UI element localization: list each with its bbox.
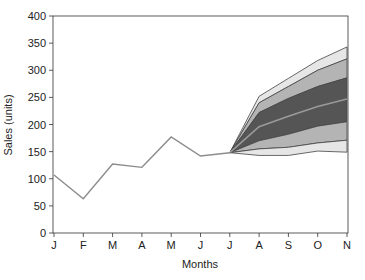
x-tick-label: M <box>108 239 117 251</box>
y-tick-label: 250 <box>28 91 46 103</box>
x-tick-label: O <box>313 239 322 251</box>
actual-sales-line <box>54 137 230 199</box>
x-axis-title: Months <box>182 258 219 270</box>
y-tick-label: 200 <box>28 119 46 131</box>
x-tick-label: N <box>343 239 351 251</box>
y-tick-label: 400 <box>28 10 46 22</box>
y-tick-label: 50 <box>34 200 46 212</box>
x-tick-label: S <box>285 239 292 251</box>
y-tick-label: 100 <box>28 173 46 185</box>
chart-svg: 050100150200250300350400JFMAMJJASON Mont… <box>0 0 365 280</box>
x-tick-label: J <box>198 239 204 251</box>
y-tick-label: 300 <box>28 64 46 76</box>
y-tick-label: 150 <box>28 146 46 158</box>
x-tick-label: J <box>227 239 233 251</box>
x-tick-label: F <box>80 239 87 251</box>
y-axis-title: Sales (units) <box>2 94 14 155</box>
sales-line <box>54 137 230 199</box>
y-tick-label: 350 <box>28 37 46 49</box>
fan-chart: 050100150200250300350400JFMAMJJASON Mont… <box>0 0 365 280</box>
x-tick-label: A <box>255 239 263 251</box>
forecast-fan <box>230 47 347 156</box>
y-tick-label: 0 <box>40 227 46 239</box>
x-tick-label: J <box>51 239 57 251</box>
x-tick-label: A <box>138 239 146 251</box>
x-tick-label: M <box>167 239 176 251</box>
